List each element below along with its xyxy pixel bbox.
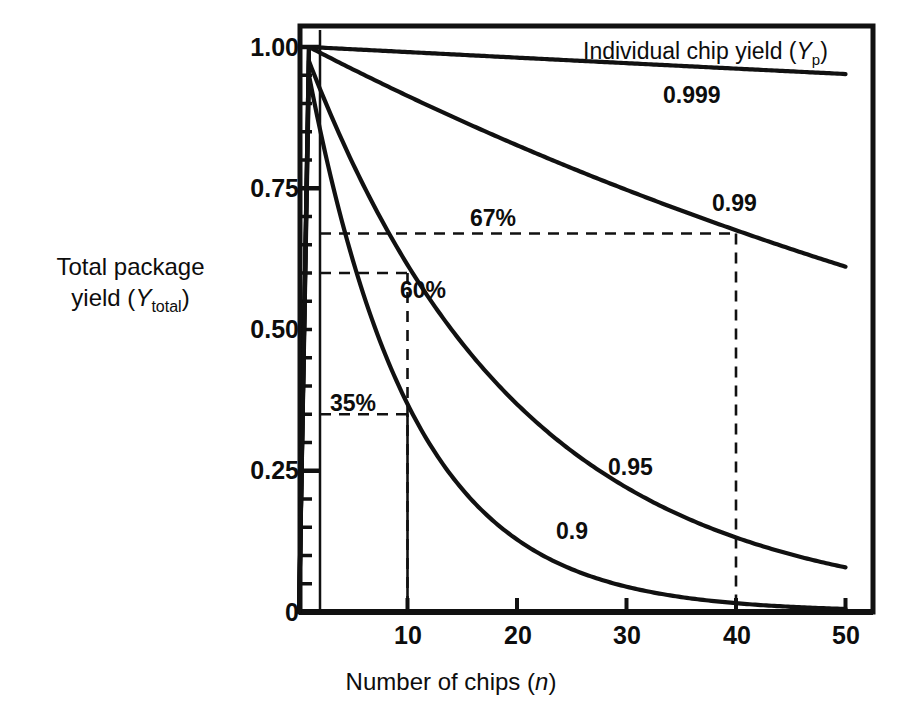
chart-figure: 1.00 0.75 0.50 0.25 0 10 20 30 40 50 Num… bbox=[0, 0, 902, 720]
x-tick-label-40: 40 bbox=[707, 621, 767, 650]
x-tick-label-30: 30 bbox=[597, 621, 657, 650]
series-label-0-95: 0.95 bbox=[608, 454, 653, 481]
annotation-60-percent: 60% bbox=[400, 277, 446, 304]
y-axis-title-line1: Total package bbox=[56, 253, 204, 280]
y-tick-label-0: 0 bbox=[285, 598, 299, 627]
annotation-67-percent: 67% bbox=[470, 205, 516, 232]
x-tick-label-20: 20 bbox=[488, 621, 548, 650]
y-tick-label-1-00: 1.00 bbox=[250, 33, 299, 62]
series-label-0-99: 0.99 bbox=[712, 190, 757, 217]
series-label-0-9: 0.9 bbox=[556, 518, 588, 545]
annotation-35-percent: 35% bbox=[330, 390, 376, 417]
y-axis-title-line2-pre: yield (Ytotal) bbox=[71, 284, 189, 311]
y-axis-title: Total package yield (Ytotal) bbox=[18, 252, 243, 317]
legend-header: Individual chip yield (Yp) bbox=[583, 38, 828, 68]
y-tick-label-0-25: 0.25 bbox=[250, 456, 299, 485]
x-axis-title: Number of chips (n) bbox=[0, 668, 902, 696]
legend-header-subscript: p bbox=[812, 51, 820, 68]
x-tick-label-50: 50 bbox=[816, 621, 876, 650]
x-tick-label-10: 10 bbox=[378, 621, 438, 650]
x-axis-title-variable: n bbox=[535, 668, 548, 695]
y-tick-label-0-50: 0.50 bbox=[250, 315, 299, 344]
series-label-0-999: 0.999 bbox=[663, 82, 721, 109]
y-axis-title-subscript: total bbox=[151, 298, 181, 315]
x-axis-title-text: Number of chips bbox=[346, 668, 521, 695]
chart-canvas bbox=[0, 0, 902, 720]
y-tick-label-0-75: 0.75 bbox=[250, 174, 299, 203]
